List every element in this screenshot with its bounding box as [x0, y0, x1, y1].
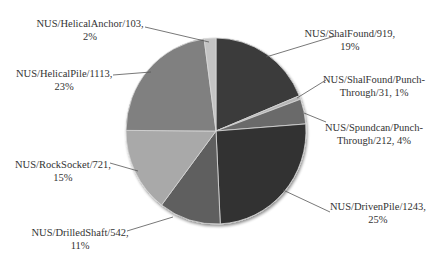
data-label-line: NUS/DrilledShaft/542, — [32, 226, 129, 239]
leader-line — [283, 190, 330, 212]
data-label-line: NUS/HelicalPile/1113, — [16, 67, 112, 80]
leader-line — [145, 27, 209, 42]
data-label-line: NUS/HelicalAnchor/103, — [37, 17, 144, 30]
data-label-line: NUS/ShalFound/Punch- — [323, 73, 425, 86]
data-label-line: Through/31, 1% — [323, 86, 425, 99]
pie-slice-nus-drivenpile — [216, 124, 306, 224]
data-label-line: NUS/DrivenPile/1243, — [330, 200, 426, 213]
leader-line — [127, 217, 173, 231]
data-label: NUS/RockSocket/721,15% — [15, 158, 111, 184]
data-label: NUS/ShalFound/919,19% — [305, 27, 396, 53]
data-label-line: 25% — [330, 213, 426, 226]
data-label-line: NUS/ShalFound/919, — [305, 27, 396, 40]
data-label: NUS/Spundcan/Punch-Through/212, 4% — [325, 121, 423, 147]
data-label-line: 15% — [15, 171, 111, 184]
data-label-line: 2% — [37, 30, 144, 43]
pie-slice-nus-helicalpile — [126, 39, 216, 131]
data-label-line: Through/212, 4% — [325, 134, 423, 147]
data-label-line: 19% — [305, 40, 396, 53]
data-label-line: 23% — [16, 80, 112, 93]
data-label: NUS/DrivenPile/1243,25% — [330, 200, 426, 226]
leader-line — [297, 80, 326, 98]
pie-slices — [126, 38, 306, 224]
leader-line — [304, 113, 326, 122]
data-label: NUS/ShalFound/Punch-Through/31, 1% — [323, 73, 425, 99]
data-label-line: NUS/RockSocket/721, — [15, 158, 111, 171]
data-label: NUS/HelicalPile/1113,23% — [16, 67, 112, 93]
data-label-line: 11% — [32, 239, 129, 252]
data-label: NUS/DrilledShaft/542,11% — [32, 226, 129, 252]
data-label-line: NUS/Spundcan/Punch- — [325, 121, 423, 134]
data-label: NUS/HelicalAnchor/103,2% — [37, 17, 144, 43]
